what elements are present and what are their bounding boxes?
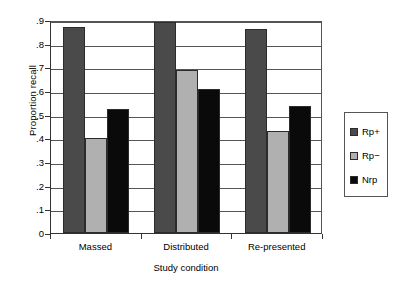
y-tick-mark [45, 210, 50, 211]
y-tick-mark [45, 116, 50, 117]
x-group-separator [322, 234, 323, 239]
y-tick-label: 0 [20, 229, 44, 239]
x-tick-label: Distributed [163, 241, 208, 252]
bar-chart-figure: Proportion recall 0.1.2.3.4.5.6.7.8.9 Ma… [0, 0, 397, 292]
bar [63, 27, 85, 233]
y-tick-mark [45, 187, 50, 188]
bar [85, 138, 107, 233]
bar [198, 89, 220, 233]
legend-label: Rp− [362, 151, 380, 161]
y-tick-label: .9 [20, 16, 44, 26]
y-tick-mark [45, 21, 50, 22]
legend-swatch-icon [350, 176, 358, 184]
bar [176, 70, 198, 233]
legend-swatch-icon [350, 152, 358, 160]
y-tick-label: .3 [20, 158, 44, 168]
y-tick-mark [45, 139, 50, 140]
bar [245, 29, 267, 233]
x-tick-label: Massed [79, 241, 112, 252]
y-tick-mark [45, 163, 50, 164]
y-tick-label: .4 [20, 135, 44, 145]
x-axis-title: Study condition [50, 262, 322, 273]
bar [107, 109, 129, 233]
legend-item: Rp− [350, 144, 387, 168]
y-tick-mark [45, 45, 50, 46]
plot-area [50, 21, 322, 234]
legend-label: Rp+ [362, 127, 380, 137]
legend-swatch-icon [350, 128, 358, 136]
bars-container [51, 22, 321, 233]
y-tick-mark [45, 92, 50, 93]
y-tick-label: .2 [20, 182, 44, 192]
y-tick-label: .7 [20, 64, 44, 74]
y-tick-label: .6 [20, 87, 44, 97]
y-tick-label: .5 [20, 111, 44, 121]
bar [267, 131, 289, 233]
y-tick-label: .8 [20, 40, 44, 50]
y-tick-label: .1 [20, 206, 44, 216]
x-group-separator [50, 234, 51, 239]
legend-item: Rp+ [350, 120, 387, 144]
bar [154, 22, 176, 233]
x-tick-label: Re-presented [248, 241, 306, 252]
chart-legend: Rp+Rp−Nrp [344, 112, 388, 197]
legend-item: Nrp [350, 168, 387, 192]
y-tick-mark [45, 68, 50, 69]
bar [289, 106, 311, 233]
x-group-separator [141, 234, 142, 239]
x-group-separator [231, 234, 232, 239]
legend-label: Nrp [362, 175, 377, 185]
